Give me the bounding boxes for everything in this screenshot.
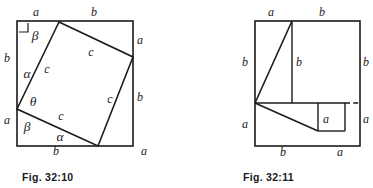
- fig1-angle-label-beta-top: β: [31, 28, 39, 43]
- fig2-label-right-a: a: [363, 112, 369, 126]
- fig1-side-label-bottom-right: a: [141, 144, 147, 158]
- fig2-label-mid-b: b: [296, 55, 302, 69]
- fig2-label-bottom-a: a: [337, 145, 343, 159]
- fig2-label-square-a: a: [323, 112, 329, 126]
- fig1-right-angle-marker: [19, 23, 28, 32]
- fig1-hypotenuse-label-0: c: [44, 62, 50, 76]
- fig1-hypotenuse-label-1: c: [88, 45, 94, 59]
- fig2-label-left-b: b: [242, 55, 248, 69]
- fig1-angle-label-theta: θ: [30, 94, 37, 109]
- fig1-side-label-bottom-left: b: [53, 144, 59, 158]
- fig1-side-label-left-upper: b: [4, 51, 10, 65]
- fig1-angle-label-beta-bottom: β: [23, 119, 31, 134]
- fig1-side-label-top-right: b: [91, 5, 97, 19]
- figure-sheet: ababababccccβαθβαabbabbaabaFig. 32:10Fig…: [0, 0, 373, 188]
- geometry-figures-canvas: ababababccccβαθβαabbabbaabaFig. 32:10Fig…: [0, 0, 373, 188]
- fig1-side-label-top-left: a: [33, 5, 39, 19]
- fig1-angle-label-alpha-bottom: α: [56, 129, 64, 144]
- fig2-diagonal-0: [255, 21, 292, 103]
- fig2-label-left-a: a: [242, 117, 248, 131]
- fig1-side-label-right-lower: b: [137, 90, 143, 104]
- fig2-label-top-a: a: [268, 5, 274, 19]
- figure-caption-1: Fig. 32:11: [243, 171, 294, 183]
- fig1-side-label-right-upper: a: [137, 33, 143, 47]
- fig1-hypotenuse-label-2: c: [107, 92, 113, 106]
- fig1-hypotenuse-label-3: c: [58, 109, 64, 123]
- fig2-label-bottom-b: b: [280, 145, 286, 159]
- fig2-label-right-b: b: [363, 55, 369, 69]
- figure-caption-0: Fig. 32:10: [22, 171, 73, 183]
- fig2-diagonal-1: [255, 103, 318, 131]
- fig2-label-top-b: b: [319, 5, 325, 19]
- fig1-side-label-left-lower: a: [4, 113, 10, 127]
- fig2-outer-square: [255, 21, 360, 146]
- fig1-angle-label-alpha-left: α: [23, 66, 31, 81]
